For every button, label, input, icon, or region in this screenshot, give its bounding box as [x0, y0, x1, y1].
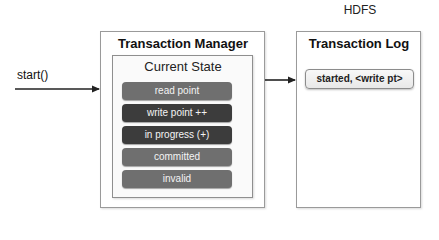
state-committed: committed [122, 148, 232, 166]
current-state-title: Current State [112, 59, 254, 74]
transaction-log-box [296, 31, 421, 208]
log-entry: started, <write pt> [305, 69, 414, 89]
state-read-point: read point [122, 82, 232, 100]
state-invalid: invalid [122, 170, 232, 188]
state-in-progress: in progress (+) [122, 126, 232, 144]
transaction-log-title: Transaction Log [296, 36, 422, 51]
state-write-point: write point ++ [122, 104, 232, 122]
transaction-manager-title: Transaction Manager [100, 36, 266, 51]
